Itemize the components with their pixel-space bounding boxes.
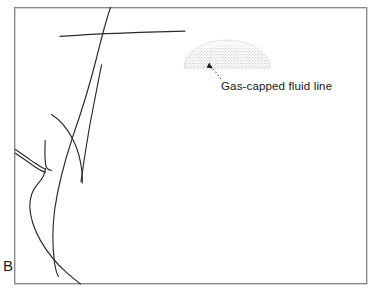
- seismic-line-drawing: [0, 0, 373, 289]
- panel-frame: [15, 8, 367, 284]
- panel-letter-label: B: [3, 258, 13, 273]
- gas-capped-fluid-line-label: Gas-capped fluid line: [221, 80, 332, 93]
- figure-panel-b: B Gas-capped fluid line: [0, 0, 373, 289]
